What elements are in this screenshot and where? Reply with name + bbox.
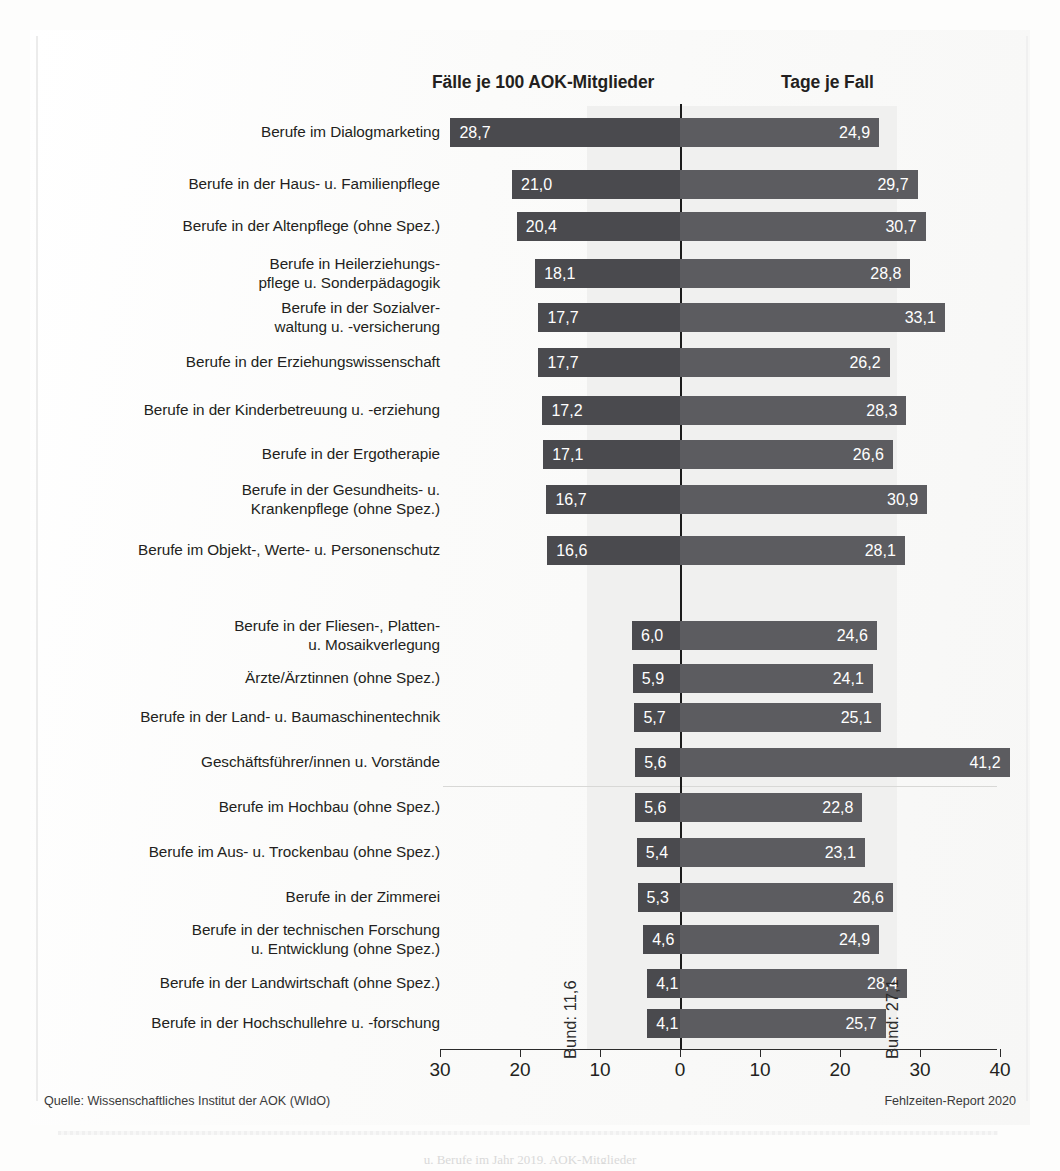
bar-value-faelle: 4,1 <box>656 969 678 998</box>
row-category-label: Berufe in der technischen Forschung u. E… <box>192 920 440 958</box>
row-category-label: Berufe in der Erziehungswissenschaft <box>186 352 440 371</box>
scan-artifact <box>58 1131 998 1135</box>
bar-value-tage: 26,6 <box>853 883 884 912</box>
chart-row: Berufe in der Erziehungswissenschaft17,7… <box>0 348 1060 377</box>
bar-value-tage: 26,2 <box>849 348 880 377</box>
source-note: Quelle: Wissenschaftliches Institut der … <box>44 1094 330 1108</box>
axis-tick-label: 30 <box>909 1059 930 1081</box>
bar-value-faelle: 17,2 <box>551 396 582 425</box>
bar-value-faelle: 16,6 <box>556 536 587 565</box>
row-category-label: Berufe in der Ergotherapie <box>262 444 440 463</box>
axis-tick <box>440 1049 441 1057</box>
chart-row: Berufe im Dialogmarketing28,724,9 <box>0 118 1060 147</box>
bar-faelle: 17,1 <box>543 440 680 469</box>
bar-faelle: 28,7 <box>450 118 680 147</box>
bar-value-tage: 28,1 <box>865 536 896 565</box>
bar-value-tage: 25,7 <box>845 1009 876 1038</box>
bar-value-faelle: 5,3 <box>647 883 669 912</box>
bar-value-tage: 23,1 <box>825 838 856 867</box>
bar-tage: 24,9 <box>680 925 879 954</box>
bar-faelle: 4,6 <box>643 925 680 954</box>
axis-tick-label: 10 <box>589 1059 610 1081</box>
bar-value-faelle: 4,1 <box>656 1009 678 1038</box>
bar-value-faelle: 5,7 <box>643 703 665 732</box>
bar-faelle: 5,3 <box>638 883 680 912</box>
bar-tage: 23,1 <box>680 838 865 867</box>
bar-value-faelle: 16,7 <box>555 485 586 514</box>
bar-value-faelle: 17,7 <box>547 303 578 332</box>
bar-tage: 41,2 <box>680 748 1010 777</box>
bar-value-tage: 33,1 <box>905 303 936 332</box>
bar-faelle: 20,4 <box>517 212 680 241</box>
chart-page: Fälle je 100 AOK-Mitglieder Tage je Fall… <box>0 0 1060 1171</box>
axis-tick <box>760 1049 761 1057</box>
row-category-label: Berufe in der Haus- u. Familienpflege <box>188 174 440 193</box>
bar-value-faelle: 17,1 <box>552 440 583 469</box>
bar-faelle: 5,6 <box>635 793 680 822</box>
bar-tage: 24,9 <box>680 118 879 147</box>
axis-tick-label: 0 <box>675 1059 686 1081</box>
bar-value-faelle: 18,1 <box>544 259 575 288</box>
bar-faelle: 5,4 <box>637 838 680 867</box>
axis-tick <box>840 1049 841 1057</box>
axis-tick-label: 20 <box>829 1059 850 1081</box>
axis-tick-label: 10 <box>749 1059 770 1081</box>
bar-value-tage: 24,1 <box>833 664 864 693</box>
bar-value-faelle: 5,9 <box>642 664 664 693</box>
bar-faelle: 17,2 <box>542 396 680 425</box>
bar-faelle: 16,7 <box>546 485 680 514</box>
bar-faelle: 21,0 <box>512 170 680 199</box>
chart-row: Berufe in der Sozialver- waltung u. -ver… <box>0 303 1060 332</box>
bar-faelle: 5,7 <box>634 703 680 732</box>
row-category-label: Ärzte/Ärztinnen (ohne Spez.) <box>245 668 440 687</box>
row-category-label: Berufe in der Zimmerei <box>286 887 440 906</box>
row-category-label: Berufe in der Fliesen-, Platten- u. Mosa… <box>234 616 440 654</box>
bar-value-tage: 28,8 <box>870 259 901 288</box>
row-category-label: Berufe im Objekt-, Werte- u. Personensch… <box>138 540 440 559</box>
bar-tage: 25,7 <box>680 1009 886 1038</box>
row-category-label: Berufe in der Land- u. Baumaschinentechn… <box>140 707 440 726</box>
row-category-label: Berufe in der Landwirtschaft (ohne Spez.… <box>160 973 440 992</box>
axis-tick-label: 20 <box>509 1059 530 1081</box>
bar-faelle: 5,6 <box>635 748 680 777</box>
chart-row: Berufe in der Zimmerei5,326,6 <box>0 883 1060 912</box>
row-category-label: Berufe in der Gesundheits- u. Krankenpfl… <box>242 480 440 518</box>
bar-value-faelle: 20,4 <box>526 212 557 241</box>
row-category-label: Berufe in der Altenpflege (ohne Spez.) <box>183 216 440 235</box>
bar-faelle: 17,7 <box>538 348 680 377</box>
bar-value-tage: 24,6 <box>837 621 868 650</box>
bar-tage: 26,6 <box>680 883 893 912</box>
bar-value-faelle: 28,7 <box>459 118 490 147</box>
bar-tage: 28,4 <box>680 969 907 998</box>
bar-value-tage: 25,1 <box>841 703 872 732</box>
row-category-label: Berufe in der Kinderbetreuung u. -erzieh… <box>144 400 440 419</box>
bar-tage: 28,1 <box>680 536 905 565</box>
chart-row: Berufe in der Land- u. Baumaschinentechn… <box>0 703 1060 732</box>
plot-area: Berufe im Dialogmarketing28,724,9Berufe … <box>0 0 1060 1171</box>
chart-row: Berufe in der Fliesen-, Platten- u. Mosa… <box>0 621 1060 650</box>
bar-value-tage: 30,9 <box>887 485 918 514</box>
axis-tick <box>600 1049 601 1057</box>
bar-tage: 29,7 <box>680 170 918 199</box>
row-category-label: Berufe in der Sozialver- waltung u. -ver… <box>275 298 440 336</box>
bar-tage: 22,8 <box>680 793 862 822</box>
bar-faelle: 18,1 <box>535 259 680 288</box>
bar-tage: 24,6 <box>680 621 877 650</box>
bar-value-faelle: 5,6 <box>644 748 666 777</box>
bar-faelle: 17,7 <box>538 303 680 332</box>
bar-value-faelle: 5,4 <box>646 838 668 867</box>
bar-value-tage: 41,2 <box>969 748 1000 777</box>
bar-tage: 28,3 <box>680 396 906 425</box>
bar-tage: 24,1 <box>680 664 873 693</box>
bar-tage: 30,9 <box>680 485 927 514</box>
chart-row: Berufe im Objekt-, Werte- u. Personensch… <box>0 536 1060 565</box>
axis-tick-label: 40 <box>989 1059 1010 1081</box>
row-category-label: Berufe im Hochbau (ohne Spez.) <box>219 797 440 816</box>
bar-value-tage: 22,8 <box>822 793 853 822</box>
chart-row: Berufe in der Gesundheits- u. Krankenpfl… <box>0 485 1060 514</box>
axis-tick <box>680 1049 681 1057</box>
bar-faelle: 16,6 <box>547 536 680 565</box>
chart-row: Berufe in der Kinderbetreuung u. -erzieh… <box>0 396 1060 425</box>
bar-value-tage: 24,9 <box>839 118 870 147</box>
chart-row: Berufe in der technischen Forschung u. E… <box>0 925 1060 954</box>
